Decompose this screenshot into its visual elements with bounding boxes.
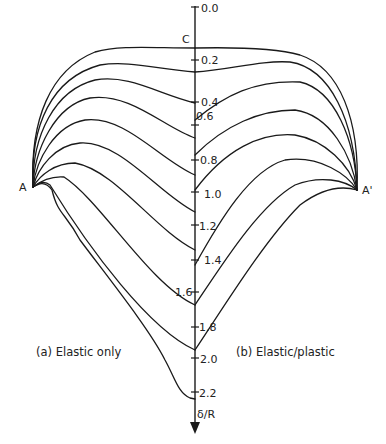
- tick-label: 0.0: [201, 2, 219, 15]
- tick-label: 2.2: [199, 387, 217, 400]
- caption-elastic-only: (a) Elastic only: [36, 345, 121, 359]
- tick-label: 0.2: [201, 54, 219, 67]
- tick-label: 1.0: [204, 188, 222, 201]
- tick-label: 1.2: [199, 220, 217, 233]
- tick-label: 1.4: [204, 254, 222, 267]
- deformation-profile-diagram: 0.0 0.2 0.4 0.6 0.8 1.0 1.2 1.4 1.6 1.8 …: [0, 0, 386, 444]
- caption-elastic-plastic: (b) Elastic/plastic: [236, 345, 335, 359]
- tick-label: 0.4: [201, 96, 219, 109]
- tick-label: 1.6: [175, 286, 193, 299]
- tick-label: 1.8: [199, 321, 217, 334]
- axis-label-c: C: [182, 33, 190, 46]
- tick-label: 2.0: [200, 353, 218, 366]
- axis-label-delta-r: δ/R: [197, 408, 215, 421]
- point-label-a: A: [19, 181, 27, 194]
- tick-label: 0.8: [200, 154, 218, 167]
- point-label-a-prime: A': [362, 184, 373, 197]
- axis-arrow-icon: [190, 422, 200, 434]
